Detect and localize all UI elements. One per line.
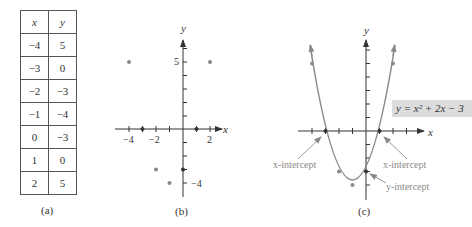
point (154, 168, 158, 172)
data-points (127, 60, 212, 185)
annotation-right-x-intercept: x-intercept (383, 159, 427, 170)
y-axis-label: y (363, 24, 369, 36)
x-axis-label: x (427, 126, 433, 138)
figure-canvas: y x −4 −2 2 5 −4 (b) (0, 0, 472, 227)
annotation-arrow-left-x-intercept (298, 137, 321, 159)
y-axis-label: y (180, 22, 186, 34)
equation-label: y = x² + 2x − 3 (395, 102, 464, 114)
caption-b: (b) (175, 205, 188, 218)
tick-label-x-neg2: −2 (149, 134, 160, 145)
point (141, 127, 145, 131)
tick-label-x-neg4: −4 (123, 134, 134, 145)
annotation-arrow-y-intercept (370, 174, 386, 183)
annotation-arrow-right-x-intercept (384, 137, 407, 159)
parabola-plot-c: y x y = x² + 2x − 3 x-intercept x-interc… (273, 24, 472, 218)
point (195, 127, 199, 131)
point (181, 168, 185, 172)
annotation-left-x-intercept: x-intercept (273, 159, 317, 170)
curve-arrow-left (311, 45, 313, 56)
y-ticks (183, 49, 187, 184)
curve-arrow-right (393, 45, 395, 56)
caption-c: (c) (358, 205, 371, 218)
x-axis-label: x (222, 123, 228, 135)
scatter-plot-b: y x −4 −2 2 5 −4 (b) (115, 22, 228, 218)
point (168, 181, 172, 185)
tick-label-y-neg4: −4 (191, 178, 202, 189)
annotation-y-intercept: y-intercept (386, 181, 430, 192)
tick-label-x-2: 2 (207, 134, 212, 145)
tick-label-y-5: 5 (174, 56, 179, 67)
point (127, 60, 131, 64)
point (208, 60, 212, 64)
